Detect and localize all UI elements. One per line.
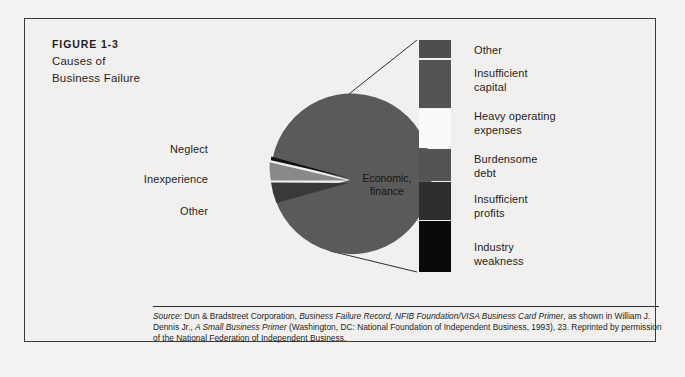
source-divider (153, 306, 659, 307)
bar-label-other: Other (474, 44, 502, 58)
bar-label-burdensome-debt: Burdensome debt (474, 153, 537, 180)
source-label: Source: (153, 311, 182, 321)
bar-segment-other (419, 40, 451, 58)
bar-label-insufficient-capital: Insufficient capital (474, 67, 528, 94)
source-line1-b: , as shown in (563, 311, 612, 321)
page-background: FIGURE 1-3 Causes of Business Failure (0, 0, 685, 377)
bar-label-insufficient-profits: Insufficient profits (474, 193, 528, 220)
source-line1-a: Dun & Bradstreet Corporation, (182, 311, 299, 321)
chart-area: Neglect Inexperience Other Economic, fin… (25, 19, 657, 343)
breakout-stacked-bar (419, 40, 451, 272)
figure-panel: FIGURE 1-3 Causes of Business Failure (24, 18, 656, 342)
pie-label-neglect: Neglect (170, 143, 208, 155)
pie-label-economic-finance: Economic, finance (347, 172, 427, 198)
pie-label-other: Other (180, 205, 208, 217)
bar-label-heavy-operating-expenses: Heavy operating expenses (474, 110, 556, 137)
pie-and-breakout-chart (25, 19, 657, 343)
pie-label-inexperience: Inexperience (144, 173, 208, 185)
source-note: Source: Dun & Bradstreet Corporation, Bu… (153, 311, 665, 345)
source-line2-italic: A Small Business Primer (195, 322, 287, 332)
bar-segment-industry-weakness (419, 221, 451, 272)
bar-label-industry-weakness: Industry weakness (474, 241, 524, 268)
bar-segment-insufficient-capital (419, 60, 451, 108)
source-line1-italic: Business Failure Record, NFIB Foundation… (299, 311, 563, 321)
source-line2-b: (Washington, DC: National Foundation of … (287, 322, 569, 332)
bar-segment-heavy-operating-expenses (419, 109, 451, 148)
